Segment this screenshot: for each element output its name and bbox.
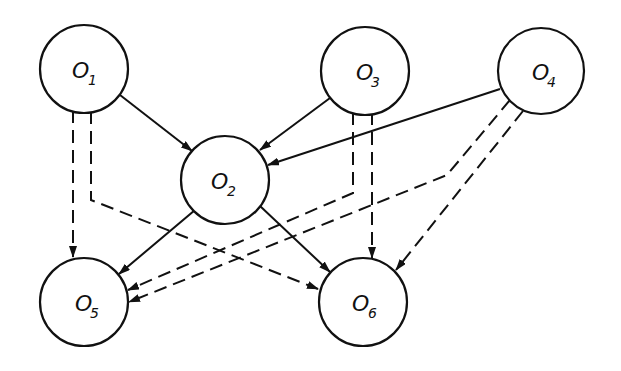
- solid-edges: [119, 89, 500, 274]
- node-o5: O 5: [40, 258, 128, 346]
- edge-o3-o2: [260, 98, 330, 150]
- dashed-edges: [73, 100, 523, 302]
- node-subscript: 4: [547, 74, 556, 90]
- node-subscript: 6: [368, 305, 377, 321]
- node-o3: O 3: [321, 27, 409, 115]
- node-subscript: 3: [371, 74, 380, 90]
- node-subscript: 1: [88, 72, 97, 88]
- edge-o2-o5: [119, 210, 195, 274]
- node-label: O: [352, 291, 369, 316]
- node-o4: O 4: [498, 28, 584, 114]
- edge-o1-o2: [120, 95, 192, 151]
- node-subscript: 2: [227, 183, 236, 199]
- node-o6: O 6: [319, 258, 407, 346]
- node-label: O: [211, 169, 228, 194]
- node-o1: O 1: [40, 25, 128, 113]
- edge-o4-o6: [396, 111, 523, 270]
- edge-o2-o6: [260, 206, 330, 272]
- node-o2: O 2: [181, 136, 269, 224]
- node-subscript: 5: [90, 305, 99, 321]
- directed-graph: O 1 O 2 O 3 O 4 O 5 O 6: [0, 0, 621, 371]
- node-label: O: [72, 58, 89, 83]
